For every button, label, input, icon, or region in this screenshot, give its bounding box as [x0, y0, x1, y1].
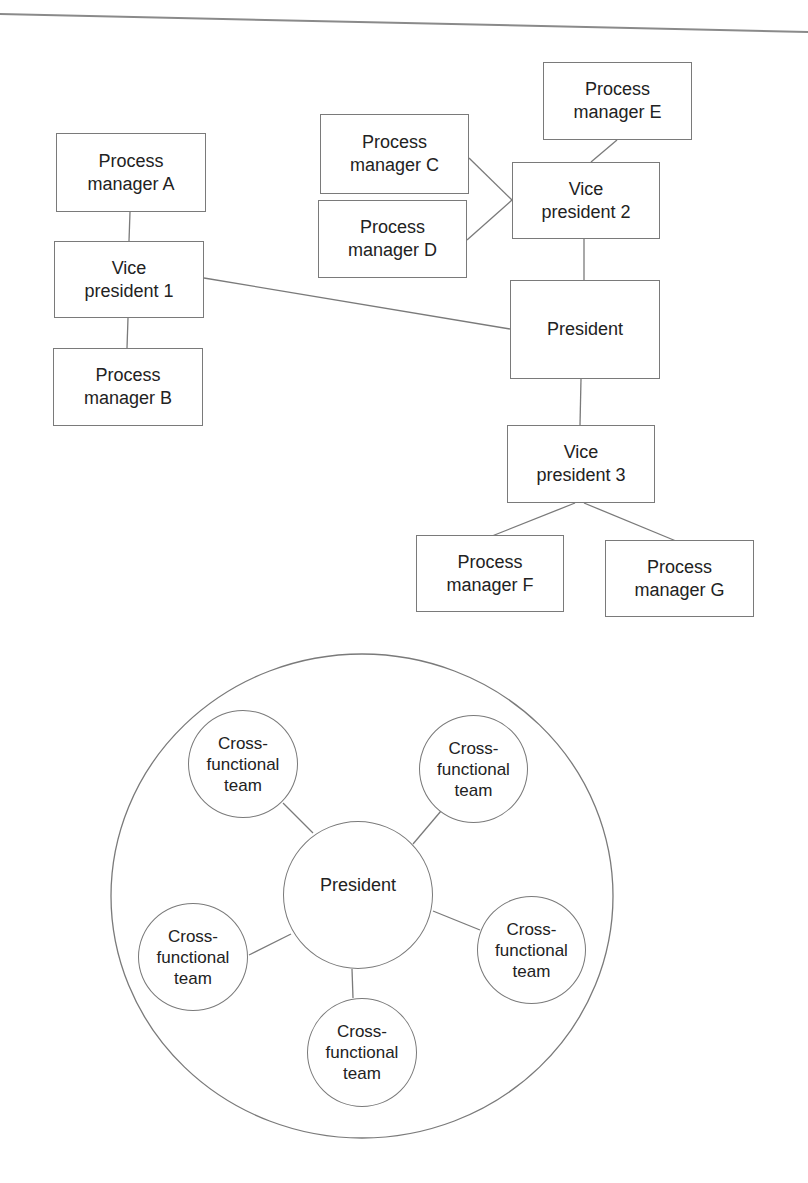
- edge-president-team-1: [283, 803, 313, 833]
- node-president: President: [510, 280, 660, 379]
- node-label: Process manager F: [446, 551, 533, 597]
- node-vice-president-1: Vice president 1: [54, 241, 204, 318]
- node-process-manager-f: Process manager F: [416, 535, 564, 612]
- team-circle-3: Cross- functional team: [138, 903, 248, 1011]
- edge-vp1-president: [204, 278, 510, 329]
- node-process-manager-a: Process manager A: [56, 133, 206, 212]
- node-label: Process manager B: [84, 364, 172, 410]
- circle-label: Cross- functional team: [326, 1021, 399, 1084]
- node-label: Process manager E: [573, 78, 661, 124]
- circle-label: Cross- functional team: [207, 733, 280, 796]
- node-label: Process manager G: [634, 556, 724, 602]
- edge-vp1-pmb: [127, 318, 128, 348]
- node-process-manager-b: Process manager B: [53, 348, 203, 426]
- node-label: Process manager C: [350, 131, 439, 177]
- team-circle-5: Cross- functional team: [307, 998, 417, 1107]
- node-label: Vice president 2: [541, 178, 630, 224]
- node-label: Process manager D: [348, 216, 437, 262]
- edge-pmc-vp2: [469, 158, 512, 200]
- node-label: President: [547, 318, 623, 341]
- edge-president-team-5: [352, 969, 353, 998]
- team-circle-1: Cross- functional team: [188, 710, 298, 818]
- circle-label: President: [320, 875, 396, 896]
- edge-pma-vp1: [129, 212, 130, 241]
- edge-president-vp3: [580, 379, 581, 425]
- node-process-manager-g: Process manager G: [605, 540, 754, 617]
- team-circle-2: Cross- functional team: [419, 715, 528, 823]
- circle-label: Cross- functional team: [437, 738, 510, 801]
- edge-president-team-3: [249, 934, 291, 955]
- circle-label: Cross- functional team: [495, 919, 568, 982]
- node-label: Process manager A: [87, 150, 174, 196]
- page-top-rule: [0, 14, 808, 32]
- node-label: Vice president 1: [84, 257, 173, 303]
- edge-vp3-pmf: [492, 503, 575, 536]
- edge-pmd-vp2: [467, 200, 512, 240]
- node-vice-president-3: Vice president 3: [507, 425, 655, 503]
- node-process-manager-d: Process manager D: [318, 200, 467, 278]
- edge-president-team-2: [413, 811, 441, 844]
- node-process-manager-e: Process manager E: [543, 62, 692, 140]
- circle-label: Cross- functional team: [157, 926, 230, 989]
- team-circle-4: Cross- functional team: [477, 896, 586, 1004]
- node-process-manager-c: Process manager C: [320, 114, 469, 194]
- edge-pme-vp2: [591, 140, 617, 162]
- edge-vp3-pmg: [584, 503, 676, 541]
- edge-president-team-4: [433, 911, 480, 930]
- center-president-circle: President: [283, 821, 433, 969]
- node-label: Vice president 3: [536, 441, 625, 487]
- node-vice-president-2: Vice president 2: [512, 162, 660, 239]
